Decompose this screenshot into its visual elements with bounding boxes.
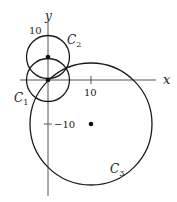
label-c2: C2 — [67, 33, 81, 49]
x-tick-label: 10 — [84, 87, 97, 98]
y-tick-label: 10 — [29, 25, 42, 36]
center-dot-c2 — [46, 55, 51, 60]
circles-diagram: x y 10 10 −10 C1 C2 C3 — [0, 0, 177, 202]
y-axis-label: y — [44, 9, 52, 23]
y-neg-tick-label: −10 — [54, 119, 75, 130]
label-c3: C3 — [110, 162, 124, 178]
center-dot-c1 — [46, 78, 51, 83]
label-c1: C1 — [14, 91, 28, 107]
center-dot-c3 — [89, 122, 94, 127]
x-axis-label: x — [163, 72, 171, 87]
